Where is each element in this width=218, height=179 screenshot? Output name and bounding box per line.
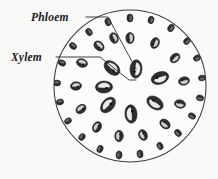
vascular-bundle bbox=[116, 151, 123, 159]
vascular-bundle bbox=[95, 81, 113, 94]
label-phloem[interactable]: Phloem bbox=[31, 11, 69, 23]
monocot-stem-diagram: Phloem Xylem bbox=[0, 0, 218, 179]
bundle-xylem-lumen bbox=[129, 34, 133, 42]
diagram-canvas: Phloem Xylem bbox=[0, 0, 218, 179]
bundle-vessel-dot bbox=[128, 39, 130, 41]
label-xylem[interactable]: Xylem bbox=[10, 51, 42, 64]
vascular-bundle bbox=[126, 32, 134, 43]
vascular-bundle bbox=[127, 14, 133, 22]
vascular-bundle bbox=[53, 80, 61, 86]
